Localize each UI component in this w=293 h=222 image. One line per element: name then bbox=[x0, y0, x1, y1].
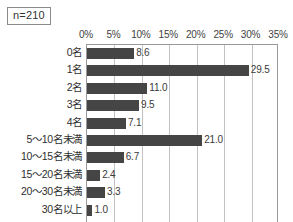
bar bbox=[87, 170, 100, 181]
bar bbox=[87, 135, 202, 146]
category-label: 4名 bbox=[0, 114, 84, 131]
bar-value-label: 21.0 bbox=[204, 133, 223, 147]
x-tick-label: 25% bbox=[213, 29, 232, 41]
bar-value-label: 3.3 bbox=[107, 185, 120, 199]
bar-value-label: 1.0 bbox=[94, 203, 107, 217]
x-tick-label: 15% bbox=[159, 29, 178, 41]
bar bbox=[87, 187, 105, 198]
x-tick-label: 0% bbox=[79, 29, 93, 41]
bar-value-label: 11.0 bbox=[149, 81, 167, 95]
category-label: 1名 bbox=[0, 61, 84, 78]
x-tick-label: 30% bbox=[241, 29, 260, 41]
category-label: 30名以上 bbox=[0, 201, 84, 218]
bar-chart-figure: n=210 0%5%10%15%20%25%30%35% 0名1名2名3名4名5… bbox=[0, 0, 293, 222]
bar bbox=[87, 118, 126, 129]
bar-value-label: 7.1 bbox=[128, 116, 141, 130]
bar-row: 3.3 bbox=[87, 184, 279, 201]
bar bbox=[87, 65, 249, 76]
category-label: 20〜30名未満 bbox=[0, 183, 84, 200]
bar-value-label: 29.5 bbox=[251, 63, 270, 77]
bar-row: 9.5 bbox=[87, 97, 279, 114]
category-label: 2名 bbox=[0, 79, 84, 96]
category-label: 15〜20名未満 bbox=[0, 166, 84, 183]
bar-row: 11.0 bbox=[87, 80, 279, 97]
category-label: 0名 bbox=[0, 44, 84, 61]
x-tick-label: 20% bbox=[186, 29, 205, 41]
category-label: 3名 bbox=[0, 96, 84, 113]
bar-value-label: 2.4 bbox=[102, 168, 115, 182]
bar-row: 7.1 bbox=[87, 115, 279, 132]
bar bbox=[87, 83, 147, 94]
bar-value-label: 9.5 bbox=[141, 98, 154, 112]
bar-row: 21.0 bbox=[87, 132, 279, 149]
bar-row: 1.0 bbox=[87, 202, 279, 219]
bar-value-label: 6.7 bbox=[126, 150, 139, 164]
bar bbox=[87, 152, 124, 163]
category-axis-labels: 0名1名2名3名4名5〜10名未満10〜15名未満15〜20名未満20〜30名未… bbox=[0, 44, 84, 218]
category-label: 5〜10名未満 bbox=[0, 131, 84, 148]
x-axis-tick-labels: 0%5%10%15%20%25%30%35% bbox=[86, 29, 278, 42]
bar bbox=[87, 48, 134, 59]
bar-row: 8.6 bbox=[87, 45, 279, 62]
bar-row: 2.4 bbox=[87, 167, 279, 184]
bar bbox=[87, 100, 139, 111]
x-tick-label: 5% bbox=[106, 29, 120, 41]
bar bbox=[87, 205, 92, 216]
plot-area: 8.629.511.09.57.121.06.72.43.31.0 bbox=[86, 44, 278, 222]
sample-size-badge: n=210 bbox=[7, 7, 51, 25]
category-label: 10〜15名未満 bbox=[0, 148, 84, 165]
bar-value-label: 8.6 bbox=[136, 46, 149, 60]
bar-series: 8.629.511.09.57.121.06.72.43.31.0 bbox=[87, 45, 279, 219]
x-tick-label: 35% bbox=[268, 29, 287, 41]
x-tick-label: 10% bbox=[131, 29, 150, 41]
bar-row: 29.5 bbox=[87, 62, 279, 79]
bar-row: 6.7 bbox=[87, 149, 279, 166]
